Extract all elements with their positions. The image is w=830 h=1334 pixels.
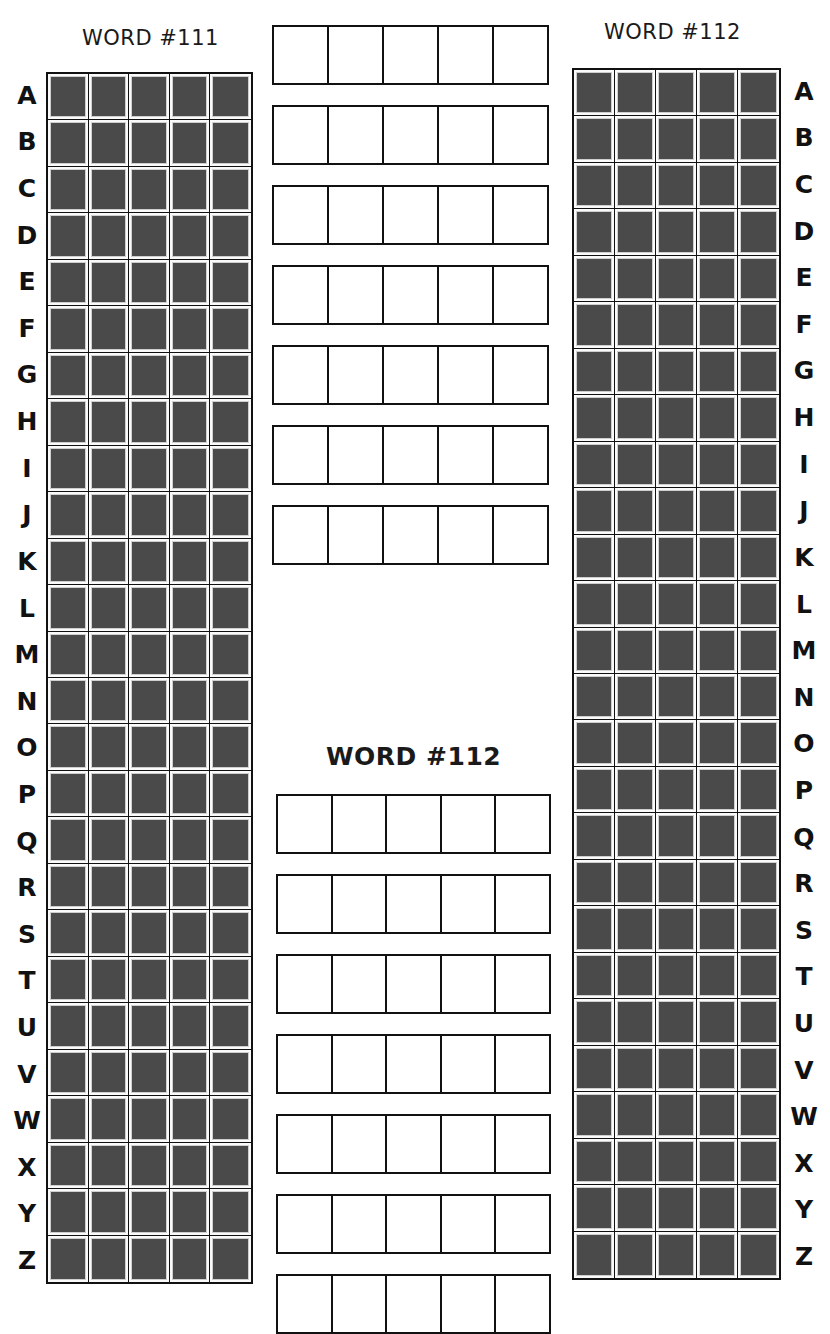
letter-box[interactable] — [387, 796, 442, 852]
grid-cell-u-4[interactable] — [697, 999, 738, 1045]
grid-cell-r-1[interactable] — [574, 860, 615, 906]
grid-cell-m-5[interactable] — [738, 628, 779, 674]
letter-box[interactable] — [439, 507, 494, 563]
grid-cell-p-2[interactable] — [615, 767, 656, 813]
letter-box[interactable] — [439, 347, 494, 403]
grid-cell-v-2[interactable] — [615, 1046, 656, 1092]
grid-cell-f-2[interactable] — [615, 302, 656, 348]
letter-box[interactable] — [333, 1116, 388, 1172]
grid-cell-g-5[interactable] — [210, 353, 251, 399]
grid-cell-k-1[interactable] — [574, 535, 615, 581]
grid-cell-h-5[interactable] — [738, 395, 779, 441]
grid-cell-w-5[interactable] — [738, 1092, 779, 1138]
grid-cell-r-4[interactable] — [697, 860, 738, 906]
grid-cell-w-2[interactable] — [89, 1096, 130, 1142]
grid-cell-t-4[interactable] — [170, 957, 211, 1003]
grid-cell-h-3[interactable] — [656, 395, 697, 441]
letter-box[interactable] — [278, 1036, 333, 1092]
grid-cell-a-1[interactable] — [48, 74, 89, 120]
grid-cell-l-2[interactable] — [89, 585, 130, 631]
grid-cell-c-3[interactable] — [656, 163, 697, 209]
grid-cell-g-2[interactable] — [89, 353, 130, 399]
grid-cell-e-1[interactable] — [48, 260, 89, 306]
grid-cell-r-2[interactable] — [615, 860, 656, 906]
grid-cell-f-5[interactable] — [738, 302, 779, 348]
grid-cell-v-3[interactable] — [129, 1050, 170, 1096]
letter-box[interactable] — [442, 1196, 497, 1252]
letter-box[interactable] — [387, 1196, 442, 1252]
grid-cell-g-3[interactable] — [129, 353, 170, 399]
letter-box[interactable] — [442, 956, 497, 1012]
grid-cell-z-5[interactable] — [738, 1232, 779, 1278]
grid-cell-f-2[interactable] — [89, 306, 130, 352]
grid-cell-s-1[interactable] — [48, 910, 89, 956]
grid-cell-n-3[interactable] — [129, 678, 170, 724]
grid-cell-q-3[interactable] — [656, 813, 697, 859]
grid-cell-h-1[interactable] — [574, 395, 615, 441]
grid-cell-s-3[interactable] — [129, 910, 170, 956]
grid-cell-i-3[interactable] — [129, 446, 170, 492]
grid-cell-x-2[interactable] — [615, 1139, 656, 1185]
grid-cell-b-4[interactable] — [170, 120, 211, 166]
grid-cell-b-1[interactable] — [574, 116, 615, 162]
letter-box[interactable] — [274, 507, 329, 563]
grid-cell-e-4[interactable] — [697, 256, 738, 302]
grid-cell-y-5[interactable] — [738, 1185, 779, 1231]
letter-box[interactable] — [384, 427, 439, 483]
grid-cell-r-1[interactable] — [48, 864, 89, 910]
grid-cell-r-3[interactable] — [129, 864, 170, 910]
grid-cell-f-1[interactable] — [48, 306, 89, 352]
grid-cell-a-4[interactable] — [170, 74, 211, 120]
grid-cell-g-4[interactable] — [697, 349, 738, 395]
grid-cell-e-5[interactable] — [210, 260, 251, 306]
grid-cell-c-4[interactable] — [697, 163, 738, 209]
letter-box[interactable] — [274, 267, 329, 323]
letter-box[interactable] — [333, 1196, 388, 1252]
grid-cell-o-5[interactable] — [210, 724, 251, 770]
letter-box[interactable] — [442, 1116, 497, 1172]
grid-cell-k-1[interactable] — [48, 539, 89, 585]
grid-cell-f-4[interactable] — [697, 302, 738, 348]
grid-cell-x-2[interactable] — [89, 1143, 130, 1189]
grid-cell-r-2[interactable] — [89, 864, 130, 910]
grid-cell-q-5[interactable] — [210, 817, 251, 863]
grid-cell-y-1[interactable] — [574, 1185, 615, 1231]
grid-cell-j-2[interactable] — [89, 492, 130, 538]
letter-box[interactable] — [329, 347, 384, 403]
letter-box[interactable] — [496, 956, 549, 1012]
grid-cell-i-1[interactable] — [574, 442, 615, 488]
grid-cell-p-4[interactable] — [170, 771, 211, 817]
letter-box[interactable] — [442, 1276, 497, 1332]
letter-box[interactable] — [494, 267, 547, 323]
grid-cell-w-3[interactable] — [129, 1096, 170, 1142]
letter-box[interactable] — [384, 267, 439, 323]
grid-cell-q-2[interactable] — [615, 813, 656, 859]
grid-cell-x-1[interactable] — [574, 1139, 615, 1185]
grid-cell-w-5[interactable] — [210, 1096, 251, 1142]
grid-cell-p-5[interactable] — [738, 767, 779, 813]
grid-cell-u-4[interactable] — [170, 1003, 211, 1049]
grid-cell-j-2[interactable] — [615, 488, 656, 534]
grid-cell-y-4[interactable] — [697, 1185, 738, 1231]
grid-cell-d-5[interactable] — [738, 209, 779, 255]
grid-cell-a-4[interactable] — [697, 70, 738, 116]
grid-cell-v-3[interactable] — [656, 1046, 697, 1092]
grid-cell-u-1[interactable] — [48, 1003, 89, 1049]
grid-cell-n-5[interactable] — [738, 674, 779, 720]
grid-cell-d-1[interactable] — [574, 209, 615, 255]
letter-box[interactable] — [494, 507, 547, 563]
letter-box[interactable] — [333, 1276, 388, 1332]
grid-cell-e-5[interactable] — [738, 256, 779, 302]
grid-cell-m-4[interactable] — [170, 632, 211, 678]
grid-cell-d-4[interactable] — [697, 209, 738, 255]
grid-cell-u-2[interactable] — [615, 999, 656, 1045]
letter-box[interactable] — [387, 956, 442, 1012]
grid-cell-d-3[interactable] — [656, 209, 697, 255]
grid-cell-i-2[interactable] — [615, 442, 656, 488]
grid-cell-p-1[interactable] — [48, 771, 89, 817]
letter-box[interactable] — [329, 267, 384, 323]
grid-cell-q-1[interactable] — [48, 817, 89, 863]
grid-cell-x-5[interactable] — [738, 1139, 779, 1185]
grid-cell-c-5[interactable] — [210, 167, 251, 213]
grid-cell-l-2[interactable] — [615, 581, 656, 627]
